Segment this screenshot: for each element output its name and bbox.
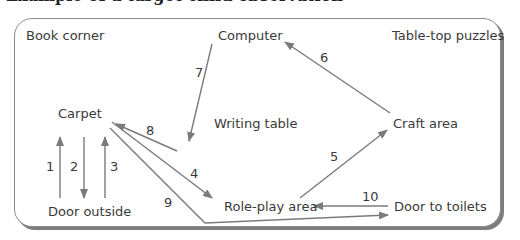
location-carpet: Carpet	[58, 107, 102, 120]
step-label-8: 8	[146, 124, 154, 137]
location-door-to-toilets: Door to toilets	[394, 200, 487, 213]
arrow-7	[189, 44, 212, 141]
location-computer: Computer	[218, 29, 283, 42]
location-writing-table: Writing table	[214, 117, 297, 130]
step-label-5: 5	[330, 150, 338, 163]
step-label-10: 10	[362, 190, 379, 203]
step-label-7: 7	[195, 66, 203, 79]
location-book-corner: Book corner	[26, 29, 104, 42]
location-table-top-puzzles: Table-top puzzles	[392, 29, 504, 42]
step-label-4: 4	[190, 167, 198, 180]
step-label-2: 2	[70, 160, 78, 173]
arrow-5	[300, 130, 387, 198]
step-label-6: 6	[320, 51, 328, 64]
step-label-3: 3	[110, 160, 118, 173]
location-door-outside: Door outside	[48, 205, 131, 218]
location-role-play-area: Role-play area	[224, 200, 317, 213]
arrow-6	[285, 42, 390, 113]
step-label-1: 1	[46, 160, 54, 173]
location-craft-area: Craft area	[393, 117, 458, 130]
arrow-4	[112, 122, 212, 198]
step-label-9: 9	[164, 196, 172, 209]
